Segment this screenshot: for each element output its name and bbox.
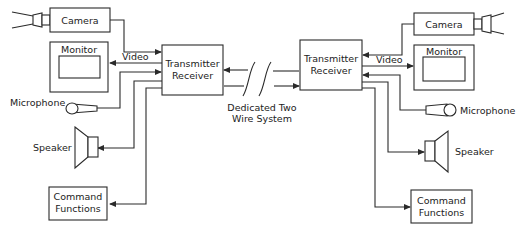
microphone-label-right: Microphone (460, 105, 515, 116)
svg-text:Monitor: Monitor (426, 46, 462, 57)
svg-text:Functions: Functions (419, 207, 464, 218)
svg-text:Transmitter: Transmitter (164, 58, 219, 69)
block-diagram: Camera Monitor Transmitter Receiver Vide… (0, 0, 516, 227)
svg-text:Receiver: Receiver (172, 70, 213, 81)
svg-text:Camera: Camera (61, 15, 98, 26)
command-box-right: Command Functions (411, 190, 472, 223)
camera-box-left: Camera (50, 8, 110, 32)
speaker-icon-right (425, 131, 448, 172)
transceiver-box-right: Transmitter Receiver (300, 40, 362, 90)
two-wire-link (224, 62, 299, 96)
svg-text:Command: Command (417, 195, 466, 206)
connector-camera-right (363, 24, 414, 55)
link-label-line1: Dedicated Two (227, 102, 296, 113)
camera-icon-left (12, 12, 50, 28)
microphone-icon-left (66, 103, 97, 114)
monitor-box-right: Monitor (414, 45, 474, 90)
video-label-left: Video (122, 51, 149, 62)
speaker-label-right: Speaker (455, 146, 494, 157)
speaker-icon-left (75, 127, 98, 168)
svg-text:Functions: Functions (55, 203, 100, 214)
camera-box-right: Camera (414, 13, 474, 35)
microphone-icon-right (426, 104, 456, 116)
camera-icon-right (474, 13, 504, 34)
microphone-label-left: Microphone (10, 97, 65, 108)
transceiver-box-left: Transmitter Receiver (162, 45, 223, 95)
connector-camera-left (110, 20, 161, 52)
svg-text:Camera: Camera (425, 19, 462, 30)
connector-command-right (362, 88, 410, 207)
command-box-left: Command Functions (49, 187, 107, 220)
monitor-box-left: Monitor (50, 42, 108, 92)
svg-text:Transmitter: Transmitter (303, 53, 358, 64)
video-label-right: Video (376, 54, 403, 65)
connector-speaker-right (362, 82, 424, 152)
svg-text:Receiver: Receiver (310, 65, 351, 76)
svg-text:Monitor: Monitor (61, 44, 97, 55)
connector-command-left (110, 88, 162, 204)
speaker-label-left: Speaker (33, 142, 72, 153)
svg-text:Command: Command (54, 191, 103, 202)
link-label-line2: Wire System (232, 113, 292, 124)
